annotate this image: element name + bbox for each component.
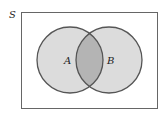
set-a-label: A <box>63 55 71 66</box>
universe-label: S <box>9 9 16 20</box>
venn-diagram: S A B <box>0 0 167 117</box>
set-b-label: B <box>106 55 114 66</box>
